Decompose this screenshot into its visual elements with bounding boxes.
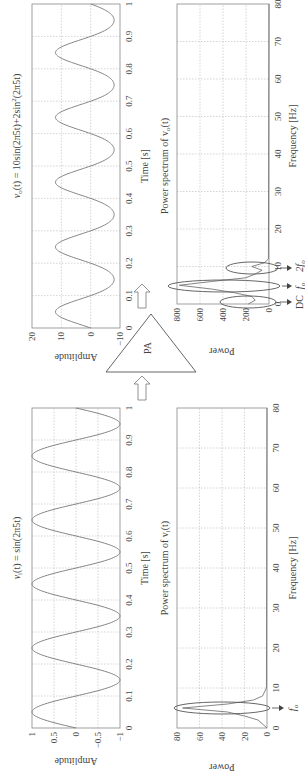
x-tick-label: 0.1 [124,690,134,701]
arrowhead-icon [287,265,292,271]
x-tick-label: 20 [273,224,283,234]
x-tick-label: 0.2 [124,658,134,669]
input-time-xticks: 00.10.20.30.40.50.60.70.80.91 [124,406,134,731]
x-tick-label: 0.8 [124,466,134,478]
x-tick-label: 0 [124,725,134,730]
output-arrow-icon [134,284,150,308]
input-spectrum-title: Power spectrum of vi(t) [159,521,172,615]
x-tick-label: 0.8 [124,63,134,75]
y-tick-label: 400 [218,308,228,322]
svg-text:fo: fo [294,282,305,289]
dc-annotation: DC [280,295,305,309]
y-tick-label: 60 [195,732,205,742]
y-tick-label: 0 [86,332,96,337]
input-spectrum-xlabel: Frequency [Hz] [287,536,298,599]
x-tick-label: 50 [273,112,283,122]
x-tick-label: 80 [271,403,281,413]
x-tick-label: 0.6 [124,530,134,542]
x-tick-label: 70 [273,37,283,47]
input-spectrum-xticks: 01020304050607080 [271,403,281,730]
y-tick-label: 200 [241,308,251,322]
x-tick-label: 0 [271,725,281,730]
y-tick-label: −10 [115,332,125,347]
output-spectrum-xlabel: Frequency [Hz] [287,104,298,167]
2fo-annotation: 2fo [280,260,305,272]
x-tick-label: 0.4 [124,192,134,204]
input-time-ylabel: Amplitude [54,756,97,767]
input-spectrum-ylabel: Power [209,762,235,773]
y-tick-label: 0 [264,308,274,313]
input-spectrum-grid [177,408,267,728]
x-tick-label: 60 [271,483,281,493]
input-spectrum-plot: Power spectrum of vi(t) 0102030405060708… [159,403,300,773]
x-tick-label: 30 [273,187,283,197]
input-time-plot: vi(t) = sin(2π5t) 00.10.20.30.40.50.60.7… [11,406,150,767]
output-time-title: vo(t) = 10sin(2π5t)+2sin2(2π5t) [10,74,24,199]
x-tick-label: 0.9 [124,434,134,446]
x-tick-label: 10 [271,683,281,693]
x-tick-label: 40 [273,149,283,159]
x-tick-label: 0.6 [124,127,134,139]
x-tick-label: 0.3 [124,626,134,638]
x-tick-label: 70 [271,443,281,453]
x-tick-label: 10 [273,262,283,272]
x-tick-label: 1 [124,2,134,7]
x-tick-label: 0.5 [124,562,134,574]
x-tick-label: 20 [271,643,281,653]
input-time-xlabel: Time [s] [139,551,150,585]
x-tick-label: 50 [271,523,281,533]
svg-text:fo: fo [287,704,300,711]
x-tick-label: 0.2 [124,258,134,269]
y-tick-label: 0 [71,732,81,737]
y-tick-label: −1 [115,732,125,742]
x-tick-label: 0.1 [124,290,134,301]
y-tick-label: 40 [217,732,227,742]
output-time-grid [32,4,120,328]
amplifier-label: PA [142,341,153,354]
input-time-yticks: 10.50−0.5−1 [27,732,125,749]
arrowhead-icon [287,299,292,305]
output-time-xlabel: Time [s] [139,149,150,183]
output-time-yticks: 20100−10 [27,332,125,347]
fo-annotation: fo [282,282,305,289]
figure-canvas: vi(t) = sin(2π5t) 00.10.20.30.40.50.60.7… [0,0,305,776]
y-tick-label: 0.5 [49,732,59,744]
figure-stage: vi(t) = sin(2π5t) 00.10.20.30.40.50.60.7… [0,0,305,776]
y-tick-label: 1 [27,732,37,737]
output-spectrum-plot: Power spectrum of vo(t) 0102030405060708… [159,0,305,357]
output-spectrum-grid [177,4,269,304]
dc-marker-ellipse [220,296,276,308]
x-tick-label: 0 [124,325,134,330]
y-tick-label: −0.5 [93,732,103,749]
y-tick-label: 20 [240,732,250,742]
output-time-plot: vo(t) = 10sin(2π5t)+2sin2(2π5t) 00.10.20… [10,2,150,363]
x-tick-label: 60 [273,74,283,84]
x-tick-label: 40 [271,563,281,573]
x-tick-label: 0.7 [124,498,134,510]
output-spectrum-yticks: 8006004002000 [172,308,274,322]
fo-annotation: fo [272,704,300,711]
svg-text:DC: DC [294,295,305,309]
y-tick-label: 10 [56,332,66,342]
output-time-xticks: 00.10.20.30.40.50.60.70.80.91 [124,2,134,331]
input-arrow-icon [134,376,150,400]
y-tick-label: 0 [262,732,272,737]
arrowhead-icon [279,705,284,711]
x-tick-label: 0.4 [124,594,134,606]
y-tick-label: 600 [195,308,205,322]
2fo-marker-ellipse [226,262,278,274]
output-spectrum-title: Power spectrum of vo(t) [159,118,172,214]
output-spectrum-ylabel: Power [209,346,235,357]
output-time-ylabel: Amplitude [54,352,97,363]
output-spectrum-xticks: 01020304050607080 [273,0,283,306]
y-tick-label: 800 [172,308,182,322]
x-tick-label: 30 [271,603,281,613]
x-tick-label: 0.5 [124,160,134,172]
y-tick-label: 80 [172,732,182,742]
x-tick-label: 80 [273,0,283,9]
arrowhead-icon [287,283,292,289]
x-tick-label: 0.9 [124,30,134,42]
y-tick-label: 20 [27,332,37,342]
x-tick-label: 1 [124,406,134,411]
x-tick-label: 0.7 [124,95,134,107]
